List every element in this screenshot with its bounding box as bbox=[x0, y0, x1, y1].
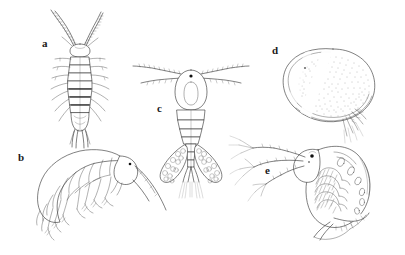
specimen-e-cladoceran bbox=[0, 0, 405, 255]
figure-plate: a b c d e bbox=[0, 0, 405, 255]
panel-label-e: e bbox=[265, 165, 270, 176]
panel-label-b: b bbox=[18, 152, 24, 163]
panel-label-d: d bbox=[272, 45, 278, 56]
panel-label-a: a bbox=[42, 38, 48, 49]
panel-label-c: c bbox=[157, 103, 162, 114]
